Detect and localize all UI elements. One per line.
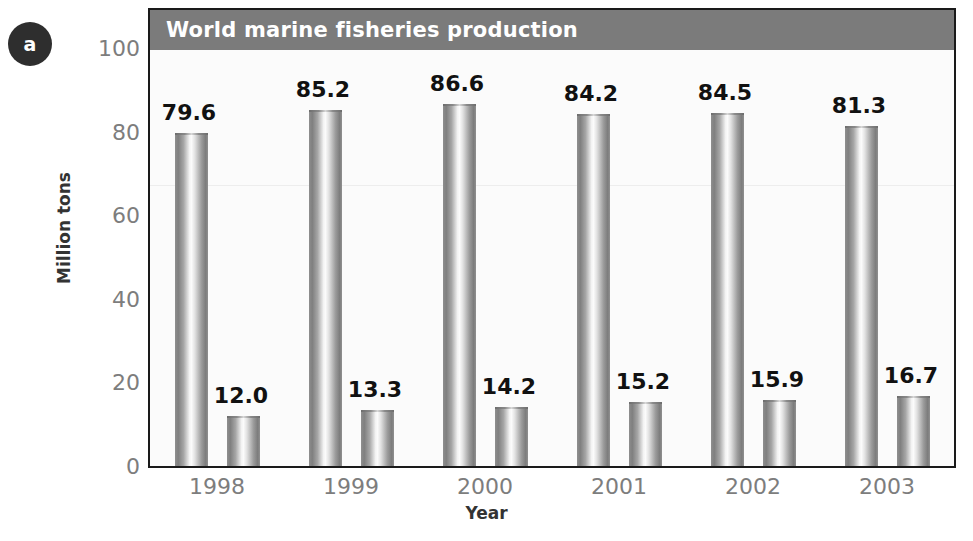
y-axis-tick-labels: 020406080100 bbox=[80, 0, 140, 541]
bar-value-label-capture-2002: 84.5 bbox=[665, 80, 785, 105]
bar-cap bbox=[897, 396, 930, 398]
x-tick-label-1998: 1998 bbox=[147, 474, 287, 499]
bar-capture-1999 bbox=[309, 110, 342, 466]
bar-cap bbox=[845, 126, 878, 128]
scan-artifact-line bbox=[150, 185, 954, 186]
bar-capture-2003 bbox=[845, 126, 878, 466]
bar-cap bbox=[443, 104, 476, 106]
bar-cap bbox=[361, 410, 394, 412]
y-tick-label: 60 bbox=[80, 203, 140, 228]
bar-value-label-aquaculture-2002: 15.9 bbox=[717, 367, 837, 392]
bar-value-label-aquaculture-1999: 13.3 bbox=[315, 377, 435, 402]
x-tick-label-1999: 1999 bbox=[281, 474, 421, 499]
bar-value-label-aquaculture-2000: 14.2 bbox=[449, 374, 569, 399]
bar-cap bbox=[227, 416, 260, 418]
bar-value-label-capture-1998: 79.6 bbox=[129, 100, 249, 125]
bar-aquaculture-2000 bbox=[495, 407, 528, 466]
bar-aquaculture-2003 bbox=[897, 396, 930, 466]
bar-cap bbox=[309, 110, 342, 112]
y-axis-title: Million tons bbox=[54, 158, 74, 298]
bar-cap bbox=[175, 133, 208, 135]
bar-aquaculture-1999 bbox=[361, 410, 394, 466]
bar-cap bbox=[629, 402, 662, 404]
bar-capture-2002 bbox=[711, 113, 744, 466]
bar-value-label-aquaculture-2003: 16.7 bbox=[851, 363, 971, 388]
bar-value-label-capture-1999: 85.2 bbox=[263, 77, 383, 102]
x-tick-label-2001: 2001 bbox=[549, 474, 689, 499]
bar-value-label-aquaculture-1998: 12.0 bbox=[181, 383, 301, 408]
bar-value-label-capture-2003: 81.3 bbox=[799, 93, 919, 118]
bar-cap bbox=[711, 113, 744, 115]
x-axis-title: Year bbox=[0, 503, 973, 523]
bar-capture-2000 bbox=[443, 104, 476, 466]
y-tick-label: 20 bbox=[80, 370, 140, 395]
x-tick-label-2003: 2003 bbox=[817, 474, 957, 499]
figure-panel-a: a Million tons 020406080100 World marine… bbox=[0, 0, 973, 541]
x-tick-label-2000: 2000 bbox=[415, 474, 555, 499]
y-tick-label: 100 bbox=[80, 36, 140, 61]
y-tick-label: 0 bbox=[80, 454, 140, 479]
bar-cap bbox=[763, 400, 796, 402]
panel-label-badge: a bbox=[8, 22, 52, 66]
bar-cap bbox=[495, 407, 528, 409]
chart-title-bar: World marine fisheries production bbox=[150, 10, 954, 50]
bar-aquaculture-2002 bbox=[763, 400, 796, 466]
bar-capture-2001 bbox=[577, 114, 610, 466]
bar-capture-1998 bbox=[175, 133, 208, 466]
chart-title: World marine fisheries production bbox=[150, 18, 578, 42]
bar-aquaculture-1998 bbox=[227, 416, 260, 466]
x-tick-label-2002: 2002 bbox=[683, 474, 823, 499]
bar-value-label-aquaculture-2001: 15.2 bbox=[583, 369, 703, 394]
bar-value-label-capture-2001: 84.2 bbox=[531, 81, 651, 106]
bar-aquaculture-2001 bbox=[629, 402, 662, 466]
y-tick-label: 40 bbox=[80, 286, 140, 311]
bar-value-label-capture-2000: 86.6 bbox=[397, 71, 517, 96]
bar-cap bbox=[577, 114, 610, 116]
panel-label-text: a bbox=[24, 35, 37, 54]
